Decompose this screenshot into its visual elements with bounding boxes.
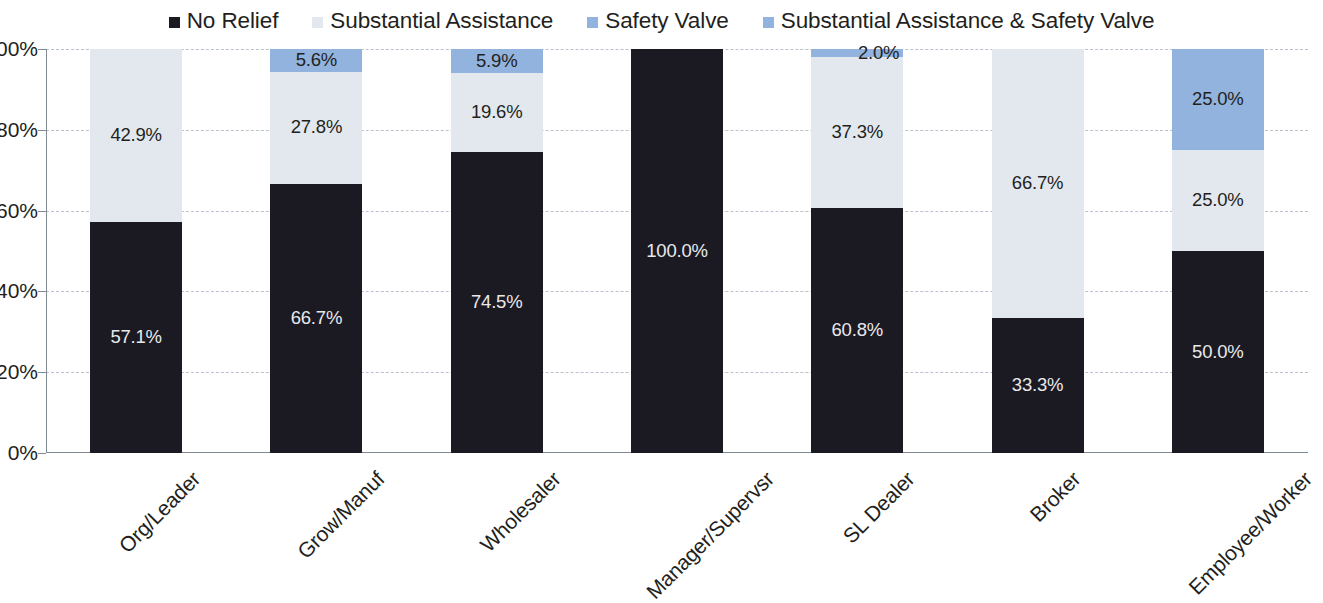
x-axis-category-label: Broker bbox=[1025, 467, 1085, 527]
legend-item-no_relief[interactable]: No Relief bbox=[169, 10, 279, 33]
legend-swatch-icon bbox=[312, 17, 323, 28]
chart-legend: No ReliefSubstantial AssistanceSafety Va… bbox=[0, 4, 1323, 38]
x-axis-label-slot: Employee/Worker bbox=[1172, 453, 1264, 591]
legend-swatch-icon bbox=[169, 17, 180, 28]
bar-segment[interactable]: 74.5% bbox=[451, 152, 543, 453]
bar-segment-value-label: 33.3% bbox=[1012, 376, 1063, 395]
bar-column[interactable]: 100.0% bbox=[631, 49, 723, 453]
x-axis-category-label: Wholesaler bbox=[475, 467, 565, 557]
y-axis-tick-mark bbox=[38, 372, 46, 373]
bar-column[interactable]: 66.7%33.3% bbox=[992, 49, 1084, 453]
bar-segment-value-label: 74.5% bbox=[471, 293, 522, 312]
x-axis-label-slot: Manager/Supervsr bbox=[631, 453, 723, 591]
bar-segment[interactable]: 57.1% bbox=[90, 222, 182, 453]
y-axis-labels: 0%20%40%60%80%100% bbox=[0, 49, 44, 453]
legend-swatch-icon bbox=[587, 17, 598, 28]
bar-column[interactable]: 25.0%25.0%50.0% bbox=[1172, 49, 1264, 453]
bar-segment[interactable]: 66.7% bbox=[992, 49, 1084, 318]
bar-segment[interactable]: 25.0% bbox=[1172, 150, 1264, 251]
x-axis-category-label: Grow/Manuf bbox=[293, 467, 389, 563]
y-axis-tick-mark bbox=[38, 291, 46, 292]
bar-segment-value-label: 25.0% bbox=[1192, 90, 1243, 109]
bar-segment-value-label: 2.0% bbox=[858, 44, 899, 63]
bar-segment[interactable]: 37.3% bbox=[811, 57, 903, 208]
bar-segment[interactable]: 19.6% bbox=[451, 73, 543, 152]
x-axis-label-slot: Org/Leader bbox=[90, 453, 182, 591]
y-axis-tick-mark bbox=[38, 211, 46, 212]
bar-segment-value-label: 60.8% bbox=[832, 321, 883, 340]
x-axis-label-slot: Wholesaler bbox=[451, 453, 543, 591]
x-axis-label-slot: Broker bbox=[992, 453, 1084, 591]
x-axis-category-label: SL Dealer bbox=[838, 467, 919, 548]
y-axis-tick-label: 20% bbox=[0, 360, 38, 384]
y-axis-tick-mark bbox=[38, 49, 46, 50]
legend-item-label: Substantial Assistance & Safety Valve bbox=[781, 10, 1155, 33]
bar-segment[interactable]: 42.9% bbox=[90, 49, 182, 222]
bar-segment-value-label: 42.9% bbox=[110, 126, 161, 145]
bar-segment[interactable]: 33.3% bbox=[992, 318, 1084, 453]
legend-item-substantial_and_safety[interactable]: Substantial Assistance & Safety Valve bbox=[763, 10, 1155, 33]
bar-segment-value-label: 5.6% bbox=[296, 51, 337, 70]
bar-segment-value-label: 100.0% bbox=[646, 242, 708, 261]
bar-segment[interactable]: 100.0% bbox=[631, 49, 723, 453]
bar-segment[interactable]: 25.0% bbox=[1172, 49, 1264, 150]
bar-segment-value-label: 27.8% bbox=[291, 118, 342, 137]
bar-segment[interactable]: 60.8% bbox=[811, 208, 903, 453]
bar-segment-value-label: 25.0% bbox=[1192, 191, 1243, 210]
bar-segment[interactable]: 66.7% bbox=[270, 184, 362, 453]
bar-column[interactable]: 5.6%27.8%66.7% bbox=[270, 49, 362, 453]
bar-segment-value-label: 57.1% bbox=[110, 328, 161, 347]
y-axis-tick-label: 0% bbox=[8, 441, 38, 465]
bar-segment-value-label: 19.6% bbox=[471, 103, 522, 122]
x-axis-label-slot: SL Dealer bbox=[811, 453, 903, 591]
x-axis-category-label: Org/Leader bbox=[115, 467, 206, 558]
legend-item-substantial_assistance[interactable]: Substantial Assistance bbox=[312, 10, 553, 33]
bar-segment-value-label: 66.7% bbox=[291, 309, 342, 328]
bar-segment[interactable]: 27.8% bbox=[270, 72, 362, 184]
x-axis-category-label: Employee/Worker bbox=[1184, 467, 1317, 600]
legend-item-label: Substantial Assistance bbox=[330, 10, 553, 33]
legend-item-label: No Relief bbox=[187, 10, 279, 33]
x-axis-label-slot: Grow/Manuf bbox=[270, 453, 362, 591]
x-axis-category-label: Manager/Supervsr bbox=[642, 467, 779, 603]
bar-group: 42.9%57.1%5.6%27.8%66.7%5.9%19.6%74.5%10… bbox=[46, 49, 1308, 453]
bar-segment[interactable]: 5.6% bbox=[270, 49, 362, 72]
x-axis-labels: Org/LeaderGrow/ManufWholesalerManager/Su… bbox=[46, 453, 1308, 591]
legend-swatch-icon bbox=[763, 17, 774, 28]
y-axis-tick-label: 100% bbox=[0, 37, 38, 61]
plot-area: 42.9%57.1%5.6%27.8%66.7%5.9%19.6%74.5%10… bbox=[46, 49, 1308, 453]
y-axis-tick-mark bbox=[38, 453, 46, 454]
bar-segment[interactable]: 5.9% bbox=[451, 49, 543, 73]
y-axis-tick-mark bbox=[38, 130, 46, 131]
y-axis-tick-label: 80% bbox=[0, 118, 38, 142]
bar-segment-value-label: 37.3% bbox=[832, 123, 883, 142]
y-axis-tick-label: 60% bbox=[0, 199, 38, 223]
bar-segment[interactable]: 2.0% bbox=[811, 49, 903, 57]
bar-segment-value-label: 50.0% bbox=[1192, 343, 1243, 362]
bar-column[interactable]: 42.9%57.1% bbox=[90, 49, 182, 453]
bar-column[interactable]: 5.9%19.6%74.5% bbox=[451, 49, 543, 453]
y-axis-tick-label: 40% bbox=[0, 279, 38, 303]
bar-column[interactable]: 2.0%37.3%60.8% bbox=[811, 49, 903, 453]
legend-item-safety_valve[interactable]: Safety Valve bbox=[587, 10, 728, 33]
bar-segment[interactable]: 50.0% bbox=[1172, 251, 1264, 453]
legend-item-label: Safety Valve bbox=[605, 10, 728, 33]
bar-segment-value-label: 66.7% bbox=[1012, 174, 1063, 193]
bar-segment-value-label: 5.9% bbox=[476, 52, 517, 71]
